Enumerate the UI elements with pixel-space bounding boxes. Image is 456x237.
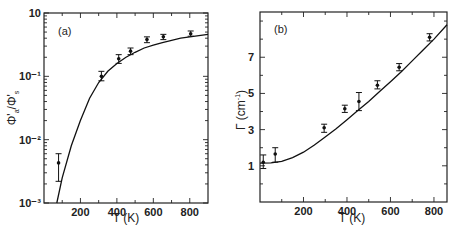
- marker: [273, 152, 277, 156]
- y-tick-label: 7: [248, 51, 254, 63]
- marker: [343, 107, 347, 111]
- data-point: [116, 55, 122, 64]
- panel-b: 2004006008001357 (b) T (K) Γ (cm-1): [234, 12, 447, 225]
- x-tick-label: 200: [294, 205, 312, 217]
- data-point: [56, 154, 62, 182]
- marker: [129, 49, 133, 53]
- x-tick-label: 200: [71, 206, 89, 218]
- x-tick-label: 600: [144, 206, 162, 218]
- ylabel-gamma: Γ (cm: [234, 100, 248, 130]
- y-tick-label: 5: [248, 87, 254, 99]
- marker: [100, 75, 104, 79]
- panel-b-ticks: 2004006008001357: [248, 12, 447, 217]
- marker: [357, 100, 361, 104]
- figure: 2004006008001010⁻¹10⁻²10⁻³ (a) T (K) Φ'a…: [0, 0, 456, 237]
- panel-a: 2004006008001010⁻¹10⁻²10⁻³ (a) T (K) Φ'a…: [5, 7, 208, 225]
- y-tick-label: 10⁻²: [19, 134, 41, 146]
- data-point: [188, 31, 194, 36]
- panel-a-frame: [44, 13, 208, 203]
- marker: [322, 126, 326, 130]
- y-tick-label: 10: [29, 7, 41, 19]
- panel-a-fit-curve: [57, 34, 208, 203]
- marker: [162, 35, 166, 39]
- ylabel-close: ): [234, 90, 248, 94]
- y-tick-label: 10⁻³: [19, 197, 41, 209]
- data-point: [427, 34, 433, 41]
- panel-a-ylabel: Φ'a/Φ's: [5, 90, 20, 125]
- ylabel-phi-num: Φ': [5, 113, 19, 125]
- data-point: [144, 37, 150, 43]
- data-point: [374, 81, 380, 89]
- x-tick-label: 800: [181, 206, 199, 218]
- y-tick-label: 3: [248, 124, 254, 136]
- marker: [397, 65, 401, 69]
- data-point: [260, 155, 266, 169]
- marker: [376, 83, 380, 87]
- panel-b-ylabel: Γ (cm-1): [234, 90, 248, 130]
- data-point: [396, 64, 402, 71]
- panel-b-label: (b): [274, 23, 287, 35]
- panel-b-xlabel: T (K): [339, 211, 365, 225]
- panel-a-label: (a): [58, 25, 71, 37]
- marker: [428, 36, 432, 40]
- data-point: [160, 34, 166, 39]
- y-tick-label: 10⁻¹: [19, 70, 41, 82]
- ylabel-sep: /Φ': [5, 94, 19, 109]
- panel-a-xlabel: T (K): [113, 211, 139, 225]
- data-point: [272, 148, 278, 162]
- panel-b-frame: [260, 12, 447, 202]
- marker: [261, 160, 265, 164]
- ylabel-sub-s: s: [13, 90, 20, 94]
- x-tick-label: 600: [381, 205, 399, 217]
- x-tick-label: 800: [425, 205, 443, 217]
- marker: [117, 57, 121, 61]
- marker: [189, 32, 193, 36]
- panel-b-fit-curve: [260, 25, 447, 163]
- data-point: [321, 124, 327, 132]
- fit-line: [57, 34, 208, 203]
- marker: [145, 38, 149, 42]
- data-point: [342, 105, 348, 112]
- marker: [57, 161, 61, 165]
- panel-b-data-points: [260, 34, 432, 169]
- panel-a-data-points: [56, 31, 194, 181]
- fit-line: [260, 25, 447, 163]
- y-tick-label: 1: [248, 160, 254, 172]
